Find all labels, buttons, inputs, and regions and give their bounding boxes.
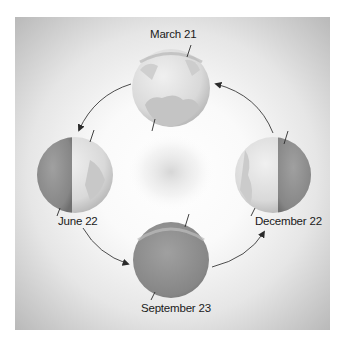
arrow-september-to-december [212,232,264,267]
label-march-21: March 21 [150,28,196,40]
globe-september-23 [133,214,209,300]
arrow-december-to-march [216,84,273,133]
axis-marker-north [90,130,94,142]
label-december-22: December 22 [255,215,322,227]
label-september-23: September 23 [141,302,211,314]
arrow-june-to-september [83,228,128,264]
orbit-diagram [0,0,341,344]
label-june-22: June 22 [58,215,98,227]
globe-june-22 [37,130,113,216]
globe-march-21 [132,45,210,131]
globe-december-22 [235,131,312,216]
arrow-march-to-june [79,84,131,130]
sun-glow [126,132,216,212]
axis-marker-north [185,214,189,227]
